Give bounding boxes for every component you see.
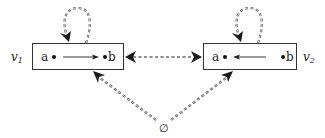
edge-empty-v2 bbox=[171, 71, 233, 120]
node-empty-label: ∅ bbox=[159, 122, 169, 135]
v2-point-a-label: a bbox=[212, 50, 219, 64]
arrowhead-icon bbox=[93, 71, 105, 83]
edge-v1-v2 bbox=[125, 51, 202, 63]
v1-point-a-label: a bbox=[41, 50, 48, 64]
v1-point-a-dot bbox=[52, 55, 56, 59]
v1-point-b-label: b bbox=[108, 50, 116, 64]
v2-point-b-label: b bbox=[286, 50, 294, 64]
v1-point-b-dot bbox=[103, 55, 107, 59]
edge-empty-v1 bbox=[93, 71, 156, 120]
arrowhead-icon bbox=[191, 51, 202, 63]
arrowhead-icon bbox=[60, 31, 71, 42]
self-loop-v2 bbox=[232, 8, 262, 43]
node-v2-label: v2 bbox=[303, 50, 315, 65]
diagram-canvas: a b a b v1 v2 ∅ bbox=[0, 0, 325, 138]
node-v1-label: v1 bbox=[11, 50, 23, 65]
arrowhead-icon bbox=[232, 31, 243, 42]
arrowhead-icon bbox=[221, 71, 233, 82]
v2-point-b-dot bbox=[281, 55, 285, 59]
v2-point-a-dot bbox=[223, 55, 227, 59]
self-loop-v1 bbox=[60, 8, 90, 43]
